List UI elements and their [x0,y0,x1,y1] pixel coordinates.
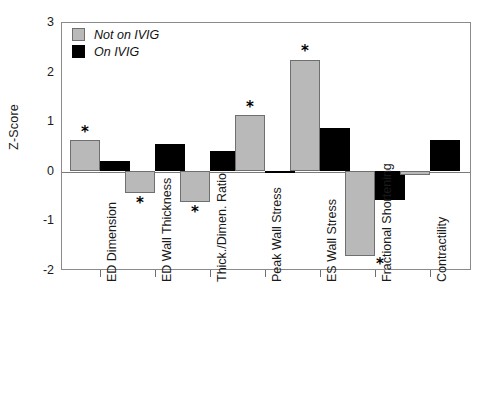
legend-swatch-gray-icon [72,28,85,41]
bar-contractility-not-on-ivig[interactable] [400,171,430,176]
bar-peak-wall-stress-on-ivig[interactable] [265,171,295,173]
bar-es-wall-stress-on-ivig[interactable] [320,128,350,171]
significance-asterisk: * [136,196,144,211]
bar-ed-dimension-on-ivig[interactable] [100,161,130,170]
x-label-text: Contractility [435,217,449,282]
legend: Not on IVIG On IVIG [72,26,159,60]
y-tick-label: -2 [22,264,54,277]
legend-item-on-ivig[interactable]: On IVIG [72,43,159,60]
significance-asterisk: * [301,44,309,59]
significance-asterisk: * [191,205,199,220]
legend-swatch-black-icon [72,45,85,58]
x-label-text: Peak Wall Stress [270,187,284,282]
y-axis-label: Z-Score [7,87,21,167]
significance-asterisk: * [246,100,254,115]
y-tick-label: 1 [22,115,54,128]
bar-thick-dimen-ratio-not-on-ivig[interactable] [180,171,210,203]
bar-ed-wall-thickness-on-ivig[interactable] [155,144,185,171]
y-tick-label: -1 [22,214,54,227]
y-tick-label: 3 [22,16,54,29]
legend-label: Not on IVIG [94,28,159,42]
x-tick-5 [375,270,376,277]
y-tick-label: 0 [22,165,54,178]
x-label-text: ED Dimension [105,202,119,282]
bar-peak-wall-stress-not-on-ivig[interactable] [235,115,265,171]
x-label-text: Thick./Dimen. Ratio [215,173,229,282]
x-tick-1 [155,270,156,277]
x-tick-4 [320,270,321,277]
bar-ed-wall-thickness-not-on-ivig[interactable] [125,171,155,193]
bar-fractional-shortening-not-on-ivig[interactable] [345,171,375,256]
x-tick-3 [265,270,266,277]
legend-item-not-on-ivig[interactable]: Not on IVIG [72,26,159,43]
bar-contractility-on-ivig[interactable] [430,140,460,171]
bar-es-wall-stress-not-on-ivig[interactable] [290,60,320,171]
legend-label: On IVIG [94,45,139,59]
x-label-text: ES Wall Stress [325,199,339,282]
x-tick-6 [430,270,431,277]
bar-ed-dimension-not-on-ivig[interactable] [70,140,100,171]
x-label-text: ED Wall Thickness [160,178,174,282]
x-label-text: Fractional Shortening [380,163,394,282]
significance-asterisk: * [81,125,89,140]
y-tick-label: 2 [22,65,54,78]
chart-figure: Z-Score 3 2 1 0 -1 -2 * * * * * [0,0,486,411]
x-tick-0 [100,270,101,277]
x-tick-2 [210,270,211,277]
